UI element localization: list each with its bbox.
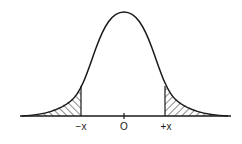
label-plus-x: +x: [161, 121, 172, 132]
label-minus-x: −x: [76, 121, 87, 132]
bell-curve: [22, 12, 228, 116]
normal-curve-diagram: −x O +x: [0, 0, 242, 144]
label-origin: O: [120, 121, 128, 132]
right-tail-shading: [165, 86, 218, 116]
left-tail-shading: [30, 86, 81, 116]
